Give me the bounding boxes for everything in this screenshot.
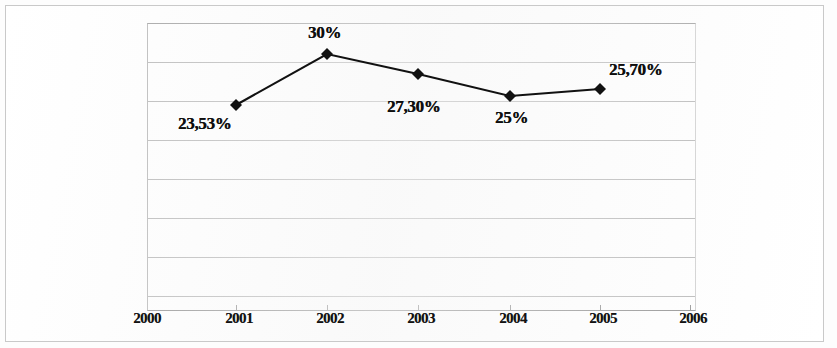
data-label-2005: 25,70% xyxy=(609,60,662,80)
data-label-2001: 23,53% xyxy=(178,114,231,134)
data-point-marker[interactable] xyxy=(321,48,333,60)
series-line-layer xyxy=(0,0,837,348)
x-axis-label-2002: 2002 xyxy=(316,310,344,327)
chart-page: 23,53% 30% 27,30% 25% 25,70% 2000 2001 2… xyxy=(0,0,837,348)
data-point-marker[interactable] xyxy=(230,99,242,111)
x-axis-label-2001: 2001 xyxy=(225,310,253,327)
data-label-2004: 25% xyxy=(495,108,528,128)
x-axis-label-2004: 2004 xyxy=(499,310,527,327)
data-label-2002: 30% xyxy=(308,23,341,43)
x-axis-label-2003: 2003 xyxy=(407,310,435,327)
data-point-marker[interactable] xyxy=(412,68,424,80)
data-point-marker[interactable] xyxy=(504,90,516,102)
x-axis-label-2005: 2005 xyxy=(589,310,617,327)
x-axis-label-2000: 2000 xyxy=(133,310,161,327)
data-label-2003: 27,30% xyxy=(387,97,440,117)
x-axis-label-2006: 2006 xyxy=(679,310,707,327)
data-point-marker[interactable] xyxy=(594,83,606,95)
